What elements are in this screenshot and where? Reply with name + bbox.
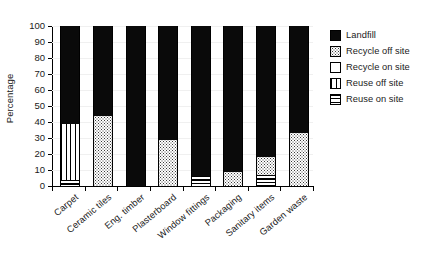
x-tick-mark xyxy=(183,187,184,191)
stacked-bar-chart: Percentage 1009080706050403020100 Carpet… xyxy=(0,0,425,266)
x-tick-mark xyxy=(117,187,118,191)
bar-eng-timber xyxy=(126,26,146,186)
bar-segment-landfill xyxy=(192,26,210,176)
plot-area: 1009080706050403020100 xyxy=(52,26,313,186)
bar-segment-recycle-off-site xyxy=(94,116,112,186)
bar-segment-recycle-off-site xyxy=(290,133,308,186)
bar-window-fittings xyxy=(191,26,211,186)
y-tick-mark xyxy=(48,42,52,43)
y-tick-label: 0 xyxy=(40,180,45,191)
legend-item-label: Reuse off site xyxy=(346,78,403,88)
legend-item-label: Recycle on site xyxy=(346,62,410,72)
bar-segment-landfill xyxy=(257,26,275,157)
y-tick-label: 90 xyxy=(34,36,45,47)
y-tick-mark xyxy=(48,26,52,27)
bar-segment-recycle-off-site xyxy=(224,172,242,186)
bar-ceramic-tiles xyxy=(93,26,113,186)
y-tick-label: 40 xyxy=(34,116,45,127)
y-tick-mark xyxy=(48,138,52,139)
bar-segment-landfill xyxy=(159,26,177,140)
legend-swatch-dotted-icon xyxy=(330,46,341,57)
y-tick-mark xyxy=(48,106,52,107)
x-tick-mark xyxy=(248,187,249,191)
x-tick-mark xyxy=(85,187,86,191)
legend-item: Landfill xyxy=(330,28,424,43)
bar-plasterboard xyxy=(158,26,178,186)
bar-segment-landfill xyxy=(290,26,308,133)
y-tick-label: 30 xyxy=(34,132,45,143)
bar-segment-recycle-off-site xyxy=(257,157,275,175)
y-tick-label: 50 xyxy=(34,100,45,111)
legend-swatch-solid-icon xyxy=(330,30,341,41)
y-tick-mark xyxy=(48,170,52,171)
y-tick-label: 60 xyxy=(34,84,45,95)
y-axis-title-text: Percentage xyxy=(5,73,16,123)
legend-item-label: Landfill xyxy=(346,30,376,40)
y-tick-label: 20 xyxy=(34,148,45,159)
bar-segment-landfill xyxy=(127,26,145,186)
y-tick-label: 10 xyxy=(34,164,45,175)
y-tick-mark xyxy=(48,122,52,123)
bar-garden-waste xyxy=(289,26,309,186)
legend-item: Reuse off site xyxy=(330,76,424,91)
bar-segment-reuse-off-site xyxy=(61,124,79,180)
legend-item: Recycle on site xyxy=(330,60,424,75)
x-tick-mark xyxy=(280,187,281,191)
legend-swatch-white-icon xyxy=(330,62,341,73)
bar-segment-reuse-on-site xyxy=(257,175,275,186)
chart-legend: LandfillRecycle off siteRecycle on siteR… xyxy=(330,28,424,108)
bar-segment-landfill xyxy=(224,26,242,172)
y-axis-title: Percentage xyxy=(2,0,18,196)
y-tick-label: 100 xyxy=(29,20,45,31)
bar-carpet xyxy=(60,26,80,186)
y-tick-mark xyxy=(48,154,52,155)
x-tick-mark xyxy=(215,187,216,191)
bar-sanitary-items xyxy=(256,26,276,186)
y-tick-label: 70 xyxy=(34,68,45,79)
legend-item: Recycle off site xyxy=(330,44,424,59)
bar-segment-landfill xyxy=(61,26,79,124)
x-tick-mark xyxy=(52,187,53,191)
legend-swatch-vertical-lines-icon xyxy=(330,78,341,89)
y-tick-mark xyxy=(48,90,52,91)
legend-item-label: Recycle off site xyxy=(346,46,410,56)
x-axis-label-carpet: Carpet xyxy=(52,192,80,218)
x-tick-mark xyxy=(150,187,151,191)
y-tick-label: 80 xyxy=(34,52,45,63)
bar-segment-reuse-on-site xyxy=(61,180,79,186)
bar-segment-recycle-off-site xyxy=(159,140,177,186)
x-tick-mark xyxy=(313,187,314,191)
legend-item: Reuse on site xyxy=(330,92,424,107)
y-tick-mark xyxy=(48,74,52,75)
bar-segment-landfill xyxy=(94,26,112,116)
y-tick-mark xyxy=(48,58,52,59)
bar-packaging xyxy=(223,26,243,186)
legend-swatch-horizontal-lines-icon xyxy=(330,94,341,105)
bar-segment-reuse-on-site xyxy=(192,176,210,186)
legend-item-label: Reuse on site xyxy=(346,94,404,104)
